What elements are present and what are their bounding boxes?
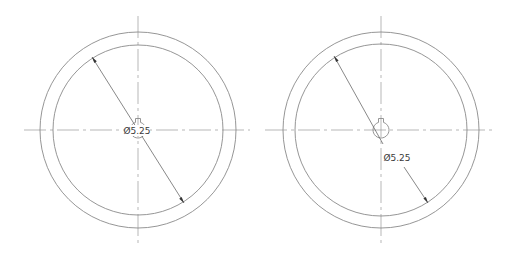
technical-drawing: Ø5.25 Ø5.25 xyxy=(0,0,510,253)
diameter-leader-line-upper xyxy=(334,56,383,144)
diameter-dimension-label: Ø5.25 xyxy=(123,126,150,136)
diameter-leader-line-lower xyxy=(404,167,428,203)
right-view: Ø5.25 xyxy=(265,16,495,243)
arrow-head-bottom xyxy=(423,197,428,203)
left-view: Ø5.25 xyxy=(24,16,250,243)
arrow-head-bottom xyxy=(179,197,184,203)
arrow-head-top xyxy=(92,57,97,63)
diameter-dimension-label: Ø5.25 xyxy=(383,153,410,163)
